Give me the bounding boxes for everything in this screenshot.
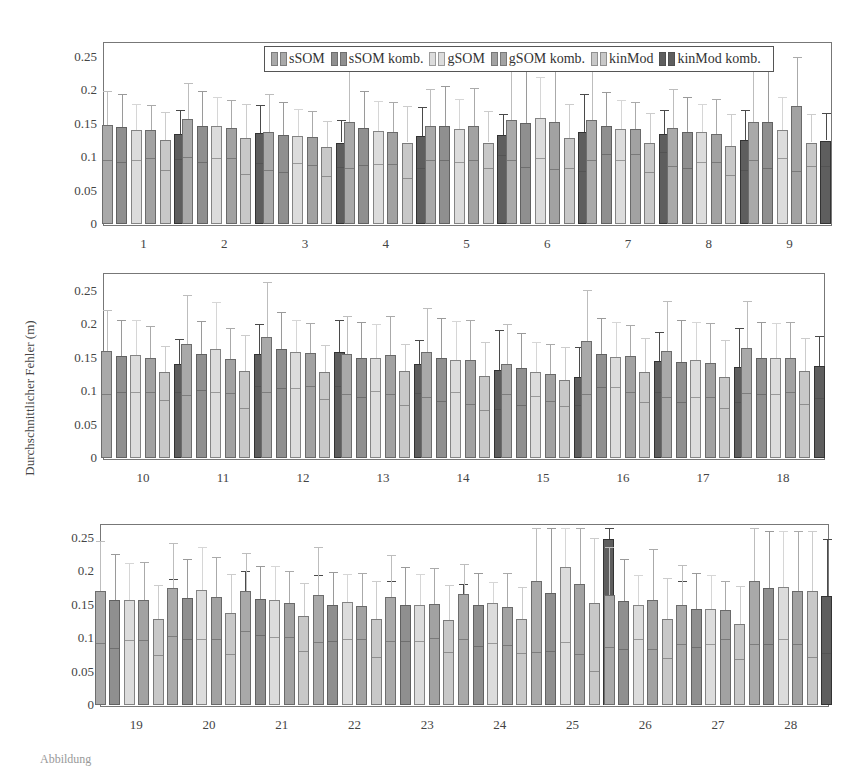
bar-inner-marker: [565, 168, 574, 169]
error-bar-cap: [786, 322, 795, 323]
error-bar-cap: [401, 567, 410, 568]
error-bar-cap: [154, 585, 163, 586]
error-bar-cap: [306, 323, 315, 324]
error-bar-cap: [183, 559, 192, 560]
y-axis-label: Durchschnittlicher Fehler (m): [22, 318, 38, 478]
bar-gsom: [269, 600, 280, 705]
bar-ssom: [748, 122, 759, 224]
error-bar: [616, 322, 617, 357]
error-bar-cap: [605, 528, 614, 529]
bar-kinmod: [443, 620, 454, 705]
error-bar: [682, 565, 683, 605]
bar-gsom-komb-: [647, 600, 658, 705]
error-bar-cap: [118, 94, 127, 95]
bar-inner-marker: [161, 170, 170, 171]
bar-inner-marker: [197, 390, 206, 391]
error-bar: [231, 100, 232, 128]
bar-kinmod: [399, 371, 410, 458]
error-bar-cap: [757, 322, 766, 323]
bar-ssom-komb-: [596, 354, 607, 458]
bar-kinmod: [371, 619, 382, 705]
bar-inner-marker: [757, 394, 766, 395]
error-bar-cap: [741, 110, 750, 111]
bar-ssom: [167, 588, 178, 705]
error-bar: [630, 325, 631, 356]
bar-inner-marker: [182, 395, 191, 396]
bar-inner-marker: [692, 647, 701, 648]
bar-inner-marker: [763, 168, 772, 169]
bar-ssom: [749, 581, 760, 705]
error-bar-cap: [294, 109, 303, 110]
error-bar: [606, 92, 607, 126]
bar-gsom: [690, 360, 701, 458]
bar-inner-marker: [264, 170, 273, 171]
bar-inner-marker: [403, 178, 412, 179]
bar-inner-marker: [742, 393, 751, 394]
bar-inner-marker: [691, 397, 700, 398]
bar-inner-marker: [125, 640, 134, 641]
bar-gsom-komb-: [226, 128, 237, 224]
bar-inner-marker: [168, 636, 177, 637]
error-bar: [445, 86, 446, 126]
error-bar-cap: [532, 342, 541, 343]
bar-inner-marker: [815, 398, 824, 399]
error-bar-cap: [430, 568, 439, 569]
error-bar-cap: [255, 324, 264, 325]
error-bar: [136, 320, 137, 355]
bar-ssom: [313, 595, 324, 705]
error-bar: [739, 328, 740, 367]
bar-kinmod: [160, 140, 171, 224]
bar-inner-marker: [582, 394, 591, 395]
error-bar: [702, 104, 703, 133]
error-bar-cap: [418, 107, 427, 108]
bar-ssom: [581, 341, 592, 458]
bar-inner-marker: [374, 164, 383, 165]
error-bar-cap: [617, 100, 626, 101]
bar-inner-marker: [328, 641, 337, 642]
error-bar-cap: [489, 582, 498, 583]
bar-inner-marker: [241, 174, 250, 175]
error-bar: [716, 99, 717, 134]
error-bar: [312, 111, 313, 137]
error-bar-cap: [561, 347, 570, 348]
error-bar-cap: [357, 322, 366, 323]
error-bar-cap: [389, 102, 398, 103]
error-bar: [246, 553, 247, 592]
error-bar: [569, 104, 570, 138]
error-bar-cap: [641, 338, 650, 339]
error-bar-cap: [470, 88, 479, 89]
bar-inner-marker: [521, 167, 530, 168]
error-bar-cap: [321, 345, 330, 346]
bar-inner-marker: [293, 163, 302, 164]
error-bar: [202, 91, 203, 126]
error-bar: [725, 581, 726, 610]
error-bar: [129, 563, 130, 600]
bar-inner-marker: [117, 162, 126, 163]
bar-ssom-komb-: [516, 368, 527, 458]
bar-gsom: [610, 357, 621, 458]
error-bar: [347, 574, 348, 602]
legend-swatch-icon: [591, 52, 598, 66]
error-bar-cap: [161, 112, 170, 113]
bar-inner-marker: [619, 649, 628, 650]
x-tick-label: 9: [770, 236, 810, 252]
error-bar-cap: [660, 110, 669, 111]
bar-inner-marker: [277, 388, 286, 389]
error-bar-cap: [727, 114, 736, 115]
error-bar-cap: [590, 538, 599, 539]
bar-inner-marker: [291, 388, 300, 389]
error-bar: [782, 97, 783, 130]
error-bar: [493, 582, 494, 603]
error-bar: [391, 555, 392, 597]
error-bar: [565, 528, 566, 567]
bar-ssom: [341, 354, 352, 458]
bar-inner-marker: [484, 168, 493, 169]
legend-item: kinMod komb.: [659, 51, 760, 67]
bar-inner-marker: [469, 160, 478, 161]
bar-gsom: [130, 355, 141, 458]
bar-ssom: [458, 594, 469, 705]
error-bar-cap: [692, 322, 701, 323]
bar-inner-marker: [749, 160, 758, 161]
error-bar: [361, 322, 362, 358]
bar-inner-marker: [611, 387, 620, 388]
